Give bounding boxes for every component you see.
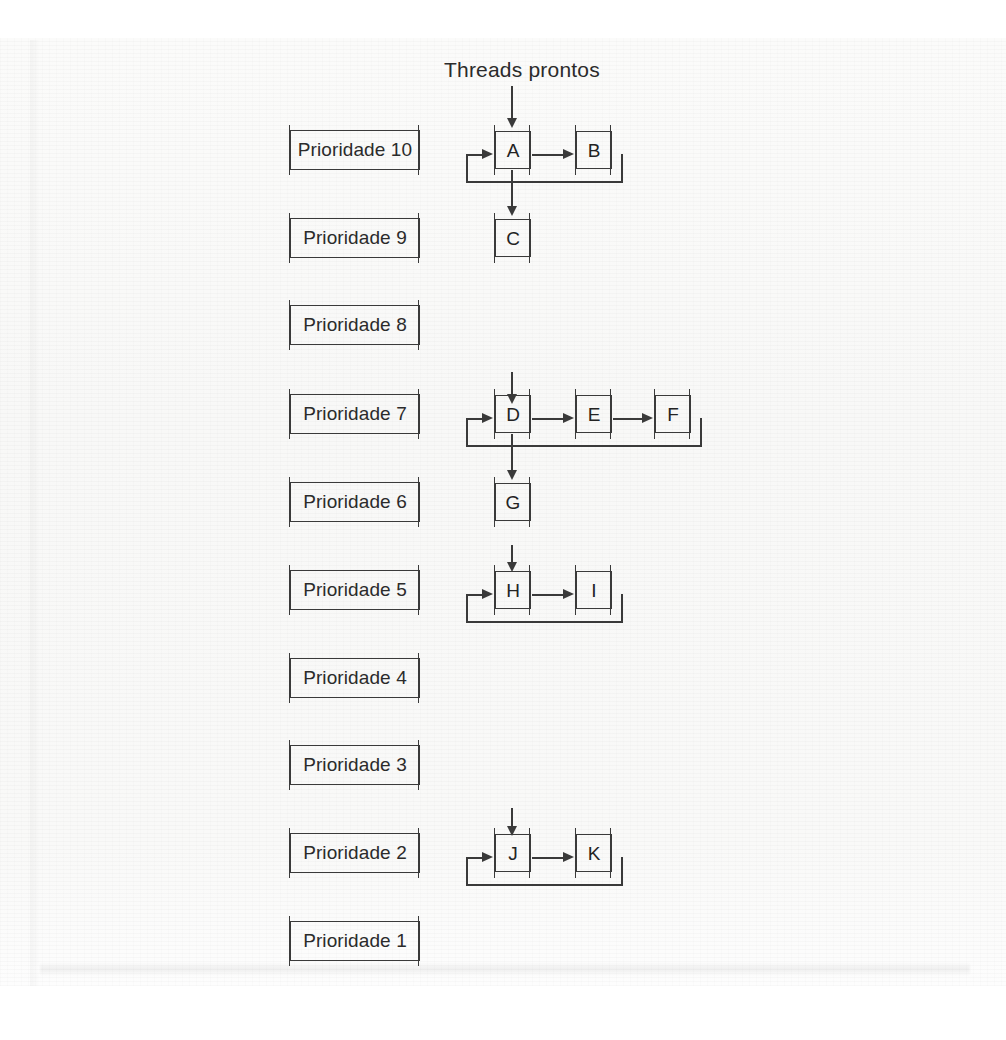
priority-box-8[interactable]: Prioridade 8 [290, 305, 420, 345]
queue-loop-left-5 [466, 594, 468, 622]
thread-label-F: F [667, 405, 679, 424]
queue-loop-return-7 [466, 418, 483, 420]
priority-box-9[interactable]: Prioridade 9 [290, 218, 420, 258]
priority-label-6: Prioridade 6 [303, 491, 407, 513]
thread-label-B: B [588, 141, 601, 160]
queue-loop-bottom-10 [466, 181, 623, 183]
thread-label-G: G [506, 493, 521, 512]
priority-box-5[interactable]: Prioridade 5 [290, 570, 420, 610]
thread-box-B[interactable]: B [576, 131, 612, 169]
queue-loop-left-10 [466, 154, 468, 182]
queue-loop-right-7 [700, 418, 702, 446]
priority-label-7: Prioridade 7 [303, 403, 407, 425]
priority-box-10[interactable]: Prioridade 10 [290, 130, 420, 170]
queue-loop-bottom-7 [466, 445, 702, 447]
link-J-to-K-arrowhead [563, 852, 574, 862]
priority-label-9: Prioridade 9 [303, 227, 407, 249]
scan-left-edge-shadow [30, 40, 40, 986]
priority-box-1[interactable]: Prioridade 1 [290, 921, 420, 961]
priority-label-4: Prioridade 4 [303, 667, 407, 689]
thread-label-K: K [588, 844, 601, 863]
link-H-to-I-arrowhead [563, 589, 574, 599]
queue-loop-left-7 [466, 418, 468, 446]
thread-box-J[interactable]: J [495, 834, 531, 872]
thread-box-I[interactable]: I [576, 571, 612, 609]
queue-loop-return-5 [466, 594, 483, 596]
link-E-to-F [613, 418, 643, 420]
diagram-canvas: Threads prontos Prioridade 10 A B Priori… [0, 0, 1006, 1040]
diagram-title: Threads prontos [444, 58, 600, 82]
thread-box-D[interactable]: D [495, 395, 531, 433]
link-J-to-K [532, 857, 564, 859]
queue-loop-bottom-2 [466, 884, 623, 886]
priority-label-10: Prioridade 10 [298, 139, 412, 161]
priority-box-7[interactable]: Prioridade 7 [290, 394, 420, 434]
link-D-to-E-arrowhead [563, 413, 574, 423]
incoming-arrow-head [507, 118, 517, 128]
queue-loop-return-10 [466, 154, 483, 156]
queue-loop-bottom-5 [466, 621, 623, 623]
link-A-to-C-arrowhead [507, 206, 517, 216]
incoming-arrow-line [511, 86, 513, 120]
queue-loop-left-2 [466, 857, 468, 885]
link-E-to-F-arrowhead [642, 413, 653, 423]
thread-box-A[interactable]: A [495, 131, 531, 169]
queue-loop-right-10 [621, 154, 623, 182]
link-A-to-B [532, 154, 564, 156]
thread-box-F[interactable]: F [655, 395, 691, 433]
link-D-to-G-line [511, 434, 513, 472]
queue-loop-arrowhead-10 [482, 149, 493, 159]
priority-box-4[interactable]: Prioridade 4 [290, 658, 420, 698]
thread-label-J: J [508, 844, 518, 863]
priority-box-6[interactable]: Prioridade 6 [290, 482, 420, 522]
thread-label-H: H [506, 581, 520, 600]
thread-box-E[interactable]: E [576, 395, 612, 433]
priority-label-3: Prioridade 3 [303, 754, 407, 776]
priority-box-2[interactable]: Prioridade 2 [290, 833, 420, 873]
link-A-to-B-arrowhead [563, 149, 574, 159]
link-A-to-C-line [511, 170, 513, 208]
queue-loop-right-2 [621, 857, 623, 885]
thread-box-G[interactable]: G [495, 483, 531, 521]
queue-loop-right-5 [621, 594, 623, 622]
queue-loop-return-2 [466, 857, 483, 859]
priority-label-5: Prioridade 5 [303, 579, 407, 601]
queue-loop-arrowhead-5 [482, 589, 493, 599]
priority-label-2: Prioridade 2 [303, 842, 407, 864]
thread-box-C[interactable]: C [495, 219, 531, 257]
thread-box-H[interactable]: H [495, 571, 531, 609]
priority-label-1: Prioridade 1 [303, 930, 407, 952]
thread-label-E: E [588, 405, 601, 424]
queue-loop-arrowhead-2 [482, 852, 493, 862]
priority-box-3[interactable]: Prioridade 3 [290, 745, 420, 785]
link-D-to-E [532, 418, 564, 420]
thread-label-D: D [506, 405, 520, 424]
thread-label-C: C [506, 229, 520, 248]
queue-loop-arrowhead-7 [482, 413, 493, 423]
thread-label-A: A [507, 141, 520, 160]
priority-label-8: Prioridade 8 [303, 314, 407, 336]
link-D-to-G-arrowhead [507, 470, 517, 480]
thread-box-K[interactable]: K [576, 834, 612, 872]
link-H-to-I [532, 594, 564, 596]
thread-label-I: I [591, 581, 596, 600]
scan-bottom-smudge [40, 962, 970, 976]
